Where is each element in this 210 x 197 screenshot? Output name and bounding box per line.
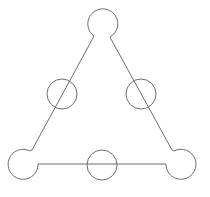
- bottom-left-vertex-circle: [8, 149, 38, 179]
- left-edge-line: [32, 36, 94, 150]
- bottom-middle-circle: [87, 150, 117, 180]
- bottom-right-vertex-circle: [166, 149, 196, 179]
- bottom-edge-line: [38, 164, 166, 166]
- top-vertex-circle: [88, 9, 118, 37]
- right-edge-line: [110, 37, 172, 150]
- triangle-circles-diagram: [0, 0, 210, 197]
